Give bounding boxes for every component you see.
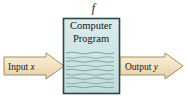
diagram-canvas xyxy=(0,0,187,101)
program-box-line1: Computer xyxy=(70,20,112,31)
function-machine-diagram: f Computer Program Input x Output y xyxy=(0,0,187,101)
input-label-variable: x xyxy=(30,62,34,72)
input-arrow-label: Input x xyxy=(8,62,35,73)
output-label-variable: y xyxy=(154,62,158,72)
function-label: f xyxy=(0,1,187,15)
output-label-text: Output xyxy=(125,62,151,72)
program-box-text: Computer Program xyxy=(63,20,119,45)
output-arrow-label: Output y xyxy=(125,62,158,73)
program-box-line2: Program xyxy=(63,33,119,46)
input-label-text: Input xyxy=(8,62,28,72)
